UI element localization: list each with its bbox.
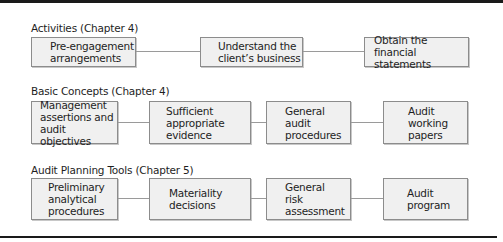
connector-line [118, 198, 149, 199]
connector-line [251, 198, 266, 199]
connector-line [118, 122, 149, 123]
row-heading-basic-concepts: Basic Concepts (Chapter 4) [31, 85, 169, 97]
box-obtain-financial-statements: Obtain the financial statements [364, 37, 469, 67]
row-heading-audit-planning-tools: Audit Planning Tools (Chapter 5) [31, 164, 193, 176]
box-management-assertions: Management assertions and audit objectiv… [31, 101, 118, 144]
box-audit-program: Audit program [383, 178, 468, 220]
box-preliminary-analytical: Preliminary analytical procedures [31, 178, 118, 220]
box-materiality-decisions: Materiality decisions [149, 178, 251, 220]
box-label: Preliminary analytical procedures [48, 181, 105, 217]
bottom-rule [0, 236, 497, 238]
box-label: Materiality decisions [169, 187, 222, 211]
box-pre-engagement: Pre-engagement arrangements [31, 37, 136, 67]
box-sufficient-evidence: Sufficient appropriate evidence [149, 101, 251, 144]
box-label: Pre-engagement arrangements [50, 40, 134, 64]
connector-line [303, 51, 364, 52]
box-label: Management assertions and audit objectiv… [40, 99, 117, 147]
box-label: General risk assessment [285, 181, 345, 217]
connector-line [351, 198, 383, 199]
row-heading-activities: Activities (Chapter 4) [31, 22, 138, 34]
box-label: Understand the client’s business [218, 40, 301, 64]
top-rule [0, 0, 503, 3]
connector-line [251, 122, 266, 123]
connector-line [351, 122, 383, 123]
box-audit-working-papers: Audit working papers [383, 101, 468, 144]
box-label: Obtain the financial statements [374, 34, 468, 70]
box-understand-business: Understand the client’s business [200, 37, 303, 67]
box-general-risk-assessment: General risk assessment [266, 178, 351, 220]
box-label: Audit program [407, 187, 450, 211]
connector-line [136, 51, 200, 52]
box-label: Audit working papers [408, 105, 448, 141]
box-general-audit-procedures: General audit procedures [266, 101, 351, 144]
box-label: General audit procedures [285, 105, 341, 141]
box-label: Sufficient appropriate evidence [166, 105, 224, 141]
